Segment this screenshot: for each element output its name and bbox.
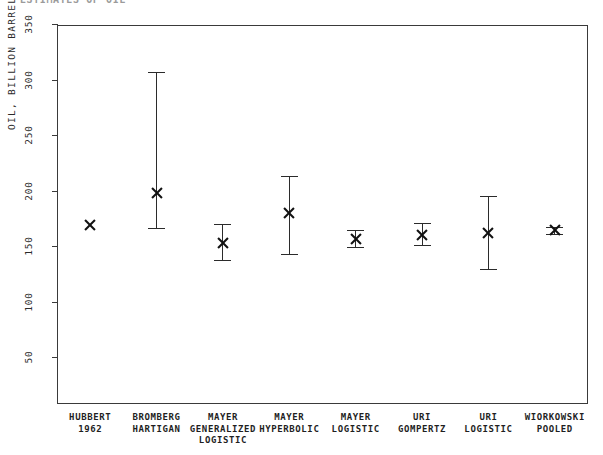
x-axis-label-3: MAYERHYPERBOLIC	[256, 412, 322, 435]
x-axis-label-line: HYPERBOLIC	[256, 424, 322, 436]
x-axis-label-line: LOGISTIC	[190, 435, 256, 447]
plot-area	[57, 25, 588, 404]
x-axis-label-line: POOLED	[522, 424, 588, 436]
x-axis-label-1: BROMBERGHARTIGAN	[123, 412, 189, 435]
x-axis-label-line: HARTIGAN	[123, 424, 189, 436]
x-axis-label-5: URIGOMPERTZ	[389, 412, 455, 435]
y-tick-label: 50	[23, 334, 34, 380]
x-axis-label-6: URILOGISTIC	[455, 412, 521, 435]
x-axis-label-line: MAYER	[323, 412, 389, 424]
x-axis-label-line: GOMPERTZ	[389, 424, 455, 436]
y-tick-mark	[52, 135, 58, 136]
y-tick-mark	[52, 302, 58, 303]
y-tick-mark	[52, 80, 58, 81]
y-axis-title: OIL, BILLION BARRELS	[6, 0, 17, 130]
x-axis-label-2: MAYERGENERALIZEDLOGISTIC	[190, 412, 256, 447]
x-axis-label-line: LOGISTIC	[455, 424, 521, 436]
x-axis-label-line: MAYER	[190, 412, 256, 424]
x-axis-label-0: HUBBERT1962	[57, 412, 123, 435]
y-tick-label: 150	[23, 223, 34, 269]
y-tick-label: 250	[23, 112, 34, 158]
y-tick-mark	[52, 191, 58, 192]
x-axis-label-4: MAYERLOGISTIC	[323, 412, 389, 435]
x-axis-label-line: HUBBERT	[57, 412, 123, 424]
chart-canvas: ESTIMATES OF OIL OIL, BILLION BARRELS 35…	[0, 0, 603, 455]
x-axis-label-line: LOGISTIC	[323, 424, 389, 436]
y-tick-mark	[52, 24, 58, 25]
x-axis-labels: HUBBERT1962BROMBERGHARTIGANMAYERGENERALI…	[57, 412, 588, 455]
x-axis-label-line: URI	[455, 412, 521, 424]
y-tick-mark	[52, 357, 58, 358]
y-tick-label: 100	[23, 279, 34, 325]
y-tick-label: 300	[23, 57, 34, 103]
x-axis-label-line: WIORKOWSKI	[522, 412, 588, 424]
x-axis-label-line: BROMBERG	[123, 412, 189, 424]
y-tick-mark	[52, 246, 58, 247]
x-axis-label-line: GENERALIZED	[190, 424, 256, 436]
x-axis-label-7: WIORKOWSKIPOOLED	[522, 412, 588, 435]
x-axis-label-line: URI	[389, 412, 455, 424]
x-axis-label-line: 1962	[57, 424, 123, 436]
page-title: ESTIMATES OF OIL	[20, 0, 126, 4]
y-tick-label: 200	[23, 168, 34, 214]
y-tick-label: 350	[23, 1, 34, 47]
x-axis-label-line: MAYER	[256, 412, 322, 424]
